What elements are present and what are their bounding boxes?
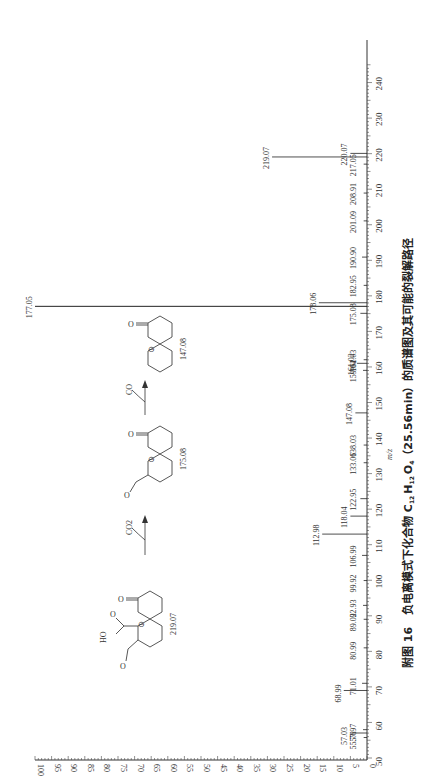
structure-175: O O ⊖ 175.08 [124, 426, 188, 500]
mz-tick-label: 80 [374, 650, 384, 660]
mz-tick-label: 200 [374, 219, 384, 233]
co2-loss-label: CO2 [125, 520, 134, 535]
spectrum-peaks [35, 153, 367, 737]
peak-label: 99.92 [349, 575, 358, 593]
peak-label: 175.08 [349, 303, 358, 325]
peak-label: 112.98 [312, 524, 321, 546]
structure-175-label: 175.08 [179, 448, 188, 470]
peak-label: 201.09 [349, 211, 358, 233]
caption-h: H [402, 485, 415, 494]
structure-147: O ⊖ 147.08 [128, 316, 188, 372]
caption-tail: （25.56min）的质谱图及其可能的裂解路径 [401, 238, 415, 461]
caption-h-sub: 12 [408, 476, 415, 484]
intensity-tick-label: 50 [202, 764, 211, 772]
intensity-axis-ticks [35, 756, 367, 760]
intensity-tick-label: 55 [185, 764, 194, 772]
intensity-tick-label: 0 [368, 764, 377, 768]
peak-label: 68.99 [334, 684, 343, 702]
peak-label: 80.99 [349, 642, 358, 660]
peak-label: 162.03 [349, 350, 358, 372]
intensity-tick-label: 70 [136, 764, 145, 772]
peak-label: 208.91 [349, 183, 358, 205]
mz-tick-label: 210 [374, 183, 384, 197]
structure-147-label: 147.08 [179, 338, 188, 360]
intensity-tick-label: 90 [69, 764, 78, 772]
caption-o: O [402, 465, 415, 474]
intensity-tick-label: 35 [252, 764, 261, 772]
mz-axis-title: m/z [385, 448, 394, 460]
structure-219-carboxyl-oxygen: O [110, 610, 116, 619]
mass-spectrum-figure: 5060708090100110120130140150160170180190… [0, 0, 433, 780]
mz-tick-label: 60 [374, 721, 384, 731]
structure-219-label: 219.07 [169, 613, 178, 635]
fragmentation-pathway: O ⊖ 147.08 CO O O ⊖ 175.08 [99, 316, 188, 671]
mz-tick-label: 160 [374, 361, 384, 375]
peak-label: 182.95 [349, 275, 358, 297]
intensity-tick-label: 30 [268, 764, 277, 772]
structure-147-oxygen: O [128, 320, 134, 329]
structure-219-ald-oxygen: O [120, 662, 126, 671]
intensity-tick-label: 75 [119, 764, 128, 772]
intensity-tick-label: 5 [351, 764, 360, 768]
mz-tick-label: 130 [374, 468, 384, 482]
peak-label: 57.97 [349, 724, 358, 742]
intensity-tick-label: 85 [86, 764, 95, 772]
caption-c-sub: 12 [408, 496, 415, 504]
svg-text:附图 16 负电离模式下化合物 C12H12O4: 附图 16 负电离模式下化合物 C12H12O4（25.56min）的质谱图及其… [401, 238, 415, 668]
peak-label: 106.99 [349, 545, 358, 567]
co-loss-arrow: CO [125, 380, 148, 415]
mz-tick-label: 220 [374, 148, 384, 162]
mz-tick-label: 140 [374, 432, 384, 446]
intensity-tick-label: 10 [335, 764, 344, 772]
intensity-tick-label: 65 [152, 764, 161, 772]
mz-tick-label: 170 [374, 325, 384, 339]
co2-loss-arrow: CO2 [125, 515, 148, 555]
peak-label: 122.95 [349, 489, 358, 511]
peak-label: 92.93 [349, 599, 358, 617]
mz-tick-label: 110 [374, 539, 384, 553]
intensity-tick-label: 60 [169, 764, 178, 772]
mz-tick-label: 70 [374, 685, 384, 695]
structure-175-oxygen: O [128, 430, 134, 439]
figure-caption: 附图 16 负电离模式下化合物 C12H12O4（25.56min）的质谱图及其… [401, 238, 415, 668]
mz-tick-label: 240 [374, 77, 384, 91]
intensity-tick-label: 45 [219, 764, 228, 772]
peak-label: 147.08 [345, 403, 354, 425]
peak-label: 178.06 [309, 293, 318, 315]
intensity-tick-label: 40 [235, 764, 244, 772]
intensity-tick-label: 20 [302, 764, 311, 772]
peak-label: 190.90 [349, 247, 358, 269]
peak-label: 220.07 [340, 143, 349, 165]
intensity-tick-label: 15 [318, 764, 327, 772]
intensity-tick-label: 100 [36, 764, 45, 776]
intensity-tick-label: 25 [285, 764, 294, 772]
caption-text: 负电离模式下化合物 C [401, 504, 415, 615]
mz-axis-tick-labels: 5060708090100110120130140150160170180190… [374, 77, 384, 766]
structure-175-ald-oxygen: O [124, 491, 130, 500]
mz-tick-label: 120 [374, 503, 384, 517]
mz-tick-label: 150 [374, 397, 384, 411]
intensity-tick-label: 80 [102, 764, 111, 772]
mz-axis-ticks [367, 65, 372, 758]
structure-219-oxygen: O [118, 595, 124, 604]
intensity-tick-label: 95 [53, 764, 62, 772]
structure-219: O O HO O ⊖ 219.07 [99, 591, 178, 671]
structure-175-charge: ⊖ [148, 455, 155, 464]
mz-tick-label: 90 [374, 614, 384, 624]
intensity-axis-tick-labels: 0510152025303540455055606570758085909510… [36, 764, 377, 776]
peak-label: 71.01 [349, 677, 358, 695]
peak-label: 219.07 [262, 147, 271, 169]
mz-tick-label: 190 [374, 254, 384, 268]
peak-label: 138.03 [349, 435, 358, 457]
mz-tick-label: 180 [374, 290, 384, 304]
mz-tick-label: 230 [374, 112, 384, 126]
peak-label: 217.05 [349, 154, 358, 176]
mz-tick-label: 100 [374, 574, 384, 588]
spectrum-peak-labels: 55.7657.0357.9768.9971.0180.9989.0292.93… [25, 143, 358, 749]
caption-prefix: 附图 16 [401, 627, 415, 668]
structure-219-ho: HO [99, 631, 108, 643]
structure-147-charge: ⊖ [148, 345, 155, 354]
structure-219-charge: ⊖ [138, 620, 145, 629]
peak-label: 177.05 [25, 296, 34, 318]
co-loss-label: CO [125, 384, 134, 395]
